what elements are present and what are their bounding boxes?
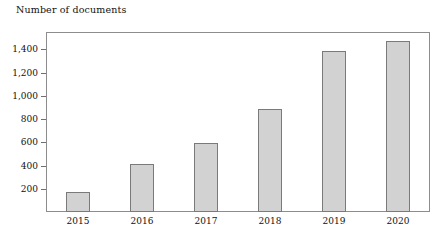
y-axis-tick-mark bbox=[41, 49, 46, 50]
bar-2018 bbox=[258, 109, 282, 212]
y-axis-tick-label: 1,200 bbox=[12, 68, 38, 77]
bar-2020 bbox=[386, 41, 410, 212]
y-axis-tick-mark bbox=[41, 142, 46, 143]
x-axis-label-2016: 2016 bbox=[131, 216, 154, 226]
y-axis-tick-mark bbox=[41, 166, 46, 167]
plot-area: 2004006008001,0001,2001,400 bbox=[46, 32, 430, 212]
y-axis-tick-label: 400 bbox=[21, 161, 38, 170]
x-axis-label-2017: 2017 bbox=[195, 216, 218, 226]
bar-2017 bbox=[194, 143, 218, 212]
y-axis-tick-label: 200 bbox=[21, 184, 38, 193]
x-axis-label-2018: 2018 bbox=[259, 216, 282, 226]
bar-2016 bbox=[130, 164, 154, 212]
x-axis-label-2015: 2015 bbox=[67, 216, 90, 226]
bar-2019 bbox=[322, 51, 346, 212]
chart-title: Number of documents bbox=[16, 4, 127, 16]
y-axis-tick-label: 1,000 bbox=[12, 91, 38, 100]
y-axis-tick-mark bbox=[41, 96, 46, 97]
y-axis-tick-mark bbox=[41, 189, 46, 190]
y-axis-tick-mark bbox=[41, 73, 46, 74]
x-axis-label-2019: 2019 bbox=[323, 216, 346, 226]
y-axis-tick-label: 1,400 bbox=[12, 45, 38, 54]
bar-chart: Number of documents 2004006008001,0001,2… bbox=[0, 0, 444, 242]
y-axis-tick-label: 800 bbox=[21, 115, 38, 124]
y-axis-tick-label: 600 bbox=[21, 138, 38, 147]
bar-2015 bbox=[66, 192, 90, 212]
y-axis-tick-mark bbox=[41, 119, 46, 120]
x-axis-label-2020: 2020 bbox=[387, 216, 410, 226]
